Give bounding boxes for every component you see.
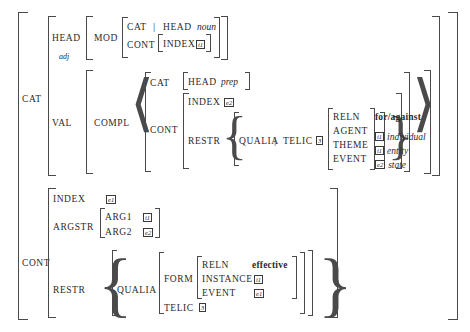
tag-form-event: e1: [254, 289, 264, 298]
attr-mod-head: HEAD: [163, 22, 192, 32]
attr-compl-telic: TELIC: [283, 136, 313, 146]
attr-arg1: ARG1: [105, 212, 132, 222]
sort-telic-event: state: [388, 160, 406, 170]
attr-cont-index: INDEX: [53, 194, 85, 204]
form-bracket-right: [292, 256, 297, 299]
tag-form-instance: i1: [254, 275, 263, 284]
attr-compl-qualia: QUALIA: [239, 136, 279, 146]
attr-cat: CAT: [22, 94, 42, 104]
outer-bracket-right: [448, 12, 458, 320]
attr-compl-head: HEAD: [188, 77, 217, 87]
attr-telic-event: EVENT: [333, 154, 367, 164]
tag-mod-index: i1: [196, 40, 205, 49]
attr-form: FORM: [164, 274, 193, 284]
attr-argstr: ARGSTR: [53, 222, 94, 232]
value-telic-event: e2state: [375, 154, 406, 172]
tag-cont-telic: 3: [199, 303, 206, 312]
cont-restr-brace-open: {: [98, 248, 133, 320]
cont-restr-brace-close: }: [318, 248, 353, 320]
attr-compl-cont: CONT: [150, 125, 178, 135]
attr-form-reln: RELN: [202, 260, 229, 270]
attr-mod-cont: CONT: [127, 40, 155, 50]
compl-angle-close: ⟩: [412, 72, 436, 134]
attr-compl-restr: RESTR: [188, 136, 220, 146]
attr-cont-telic: TELIC: [164, 303, 194, 313]
outer-bracket-left: [18, 12, 28, 320]
compl-cat-bracket-right: [245, 72, 250, 90]
tag-compl-index: e2: [224, 98, 234, 107]
head-sort-adj: adj: [59, 52, 69, 61]
mod-cont-bracket-right: [206, 34, 211, 52]
value-compl-head-prep: prep: [221, 77, 238, 87]
cont-bracket-left: [48, 188, 56, 318]
attr-compl: COMPL: [94, 118, 129, 128]
attr-head: HEAD: [52, 33, 81, 43]
feature-structure-diagram: CAT HEAD adj MOD CAT | HEAD noun CONT IN…: [0, 0, 470, 332]
attr-mod: MOD: [94, 33, 118, 43]
value-form-reln: effective: [252, 260, 288, 270]
value-telic-reln: for/against: [375, 112, 421, 122]
tag-arg1: i1: [143, 213, 152, 222]
attr-mod-cat: CAT: [127, 22, 147, 32]
attr-telic-reln: RELN: [333, 112, 360, 122]
argstr-bracket-right: [155, 208, 160, 238]
attr-cont-restr: RESTR: [53, 285, 85, 295]
mod-cat-pipe: |: [153, 20, 155, 32]
attr-cont-qualia: QUALIA: [117, 285, 157, 295]
value-mod-head-noun: noun: [197, 22, 216, 32]
attr-val: VAL: [52, 118, 72, 128]
tag-arg2: e2: [143, 228, 153, 237]
tag-telic-event: e2: [375, 160, 385, 169]
attr-telic-theme: THEME: [333, 140, 368, 150]
cont-restr-elem-bracket-right: [308, 250, 313, 316]
attr-mod-index: INDEX: [163, 39, 195, 49]
val-bracket-left: [86, 70, 93, 174]
compl-qualia-pipe: |: [274, 134, 276, 146]
attr-cont: CONT: [22, 258, 50, 268]
attr-compl-cat: CAT: [150, 78, 170, 88]
attr-form-event: EVENT: [202, 288, 236, 298]
head-bracket-right: [221, 16, 228, 60]
attr-telic-agent: AGENT: [333, 126, 368, 136]
attr-form-instance: INSTANCE: [202, 274, 253, 284]
tag-compl-telic: 3: [316, 136, 323, 145]
head-bracket-left: [86, 16, 93, 60]
attr-compl-index: INDEX: [188, 97, 220, 107]
attr-arg2: ARG2: [105, 227, 132, 237]
cont-qualia-bracket-right: [300, 252, 305, 314]
tag-cont-index: e1: [106, 195, 116, 204]
